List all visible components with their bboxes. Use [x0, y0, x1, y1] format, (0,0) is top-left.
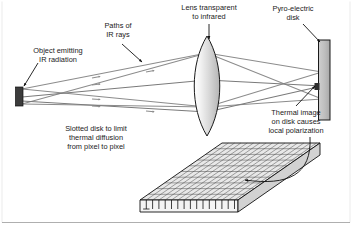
label-disk-line1: Pyro-electric: [272, 4, 313, 13]
leader-rays: [122, 44, 142, 62]
ir-source-block: [16, 87, 24, 106]
slotted-disk-plate: [140, 143, 320, 212]
label-object-line2: IR radiation: [39, 55, 77, 64]
label-lens-line1: Lens transparent: [181, 3, 236, 12]
leader-thermal: [296, 86, 315, 106]
label-thermal-line2: on disk causes: [272, 117, 321, 126]
label-slotted-line3: from pixel to pixel: [67, 142, 125, 151]
label-thermal-line1: Thermal image: [271, 108, 320, 117]
diagram-canvas: Object emitting IR radiation Paths of IR…: [0, 0, 352, 229]
label-thermal-line3: local polarization: [268, 126, 323, 135]
diagram-labels: Object emitting IR radiation Paths of IR…: [33, 3, 323, 151]
label-disk-line2: disk: [286, 13, 299, 22]
label-rays-line2: IR rays: [106, 30, 130, 39]
label-object-line1: Object emitting: [33, 46, 82, 55]
label-rays-line1: Paths of: [104, 21, 132, 30]
label-slotted-line1: Slotted disk to limit: [65, 124, 127, 133]
label-lens-line2: to infrared: [192, 12, 225, 21]
leader-disk: [303, 24, 320, 42]
leader-object: [24, 63, 38, 86]
ir-imaging-diagram: Object emitting IR radiation Paths of IR…: [0, 0, 352, 229]
ir-lens: [194, 36, 220, 136]
label-slotted-line2: thermal diffusion: [69, 133, 123, 142]
